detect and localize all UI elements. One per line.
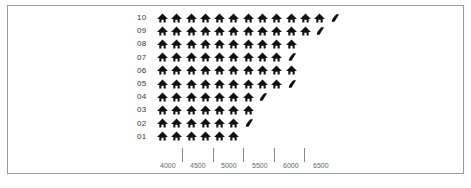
person-icon — [200, 118, 214, 129]
person-icon — [214, 25, 228, 36]
person-icon — [286, 65, 300, 76]
row-label: 07 — [137, 53, 157, 62]
person-icon — [228, 25, 242, 36]
person-icon — [186, 104, 200, 115]
person-icon — [228, 52, 242, 63]
tick-label: 4000 — [160, 162, 176, 169]
person-icon — [157, 12, 171, 23]
person-icon — [171, 38, 185, 49]
person-icon — [243, 78, 257, 89]
icon-group — [157, 118, 257, 129]
partial-person-icon — [257, 91, 271, 102]
person-icon — [171, 25, 185, 36]
person-icon — [186, 78, 200, 89]
corner-mark — [9, 176, 21, 182]
person-icon — [271, 65, 285, 76]
person-icon — [200, 38, 214, 49]
person-icon — [171, 78, 185, 89]
person-icon — [257, 78, 271, 89]
person-icon — [271, 25, 285, 36]
person-icon — [243, 52, 257, 63]
pictograph-row: 02 — [137, 117, 343, 130]
tick-label: 5000 — [221, 162, 237, 169]
person-icon — [243, 65, 257, 76]
person-icon — [286, 25, 300, 36]
person-icon — [228, 104, 242, 115]
pictograph-rows: 10090807060504030201 — [137, 11, 343, 143]
person-icon — [186, 91, 200, 102]
person-icon — [157, 25, 171, 36]
axis-tick — [213, 148, 214, 162]
person-icon — [200, 52, 214, 63]
row-label: 02 — [137, 119, 157, 128]
person-icon — [186, 25, 200, 36]
person-icon — [228, 91, 242, 102]
person-icon — [186, 118, 200, 129]
partial-person-icon — [243, 118, 257, 129]
person-icon — [200, 12, 214, 23]
pictograph-row: 05 — [137, 77, 343, 90]
icon-group — [157, 38, 300, 49]
person-icon — [157, 91, 171, 102]
person-icon — [214, 38, 228, 49]
person-icon — [286, 38, 300, 49]
person-icon — [257, 38, 271, 49]
person-icon — [228, 38, 242, 49]
person-icon — [171, 131, 185, 142]
person-icon — [214, 78, 228, 89]
person-icon — [214, 131, 228, 142]
person-icon — [214, 91, 228, 102]
tick-label: 5500 — [252, 162, 268, 169]
person-icon — [271, 38, 285, 49]
person-icon — [243, 104, 257, 115]
person-icon — [157, 65, 171, 76]
pictograph-row: 09 — [137, 24, 343, 37]
row-label: 05 — [137, 79, 157, 88]
person-icon — [186, 65, 200, 76]
person-icon — [228, 65, 242, 76]
pictograph-row: 07 — [137, 51, 343, 64]
icon-group — [157, 52, 300, 63]
person-icon — [228, 78, 242, 89]
pictograph-row: 10 — [137, 11, 343, 24]
person-icon — [171, 12, 185, 23]
person-icon — [171, 104, 185, 115]
person-icon — [200, 104, 214, 115]
axis-tick — [274, 148, 275, 162]
person-icon — [214, 118, 228, 129]
partial-person-icon — [286, 52, 300, 63]
axis-tick — [304, 148, 305, 162]
person-icon — [243, 25, 257, 36]
person-icon — [157, 118, 171, 129]
person-icon — [200, 91, 214, 102]
row-label: 10 — [137, 13, 157, 22]
person-icon — [171, 65, 185, 76]
pictograph-row: 04 — [137, 90, 343, 103]
axis-tick — [182, 148, 183, 162]
person-icon — [257, 65, 271, 76]
row-label: 09 — [137, 26, 157, 35]
person-icon — [214, 12, 228, 23]
person-icon — [157, 38, 171, 49]
person-icon — [186, 52, 200, 63]
pictograph-row: 03 — [137, 103, 343, 116]
person-icon — [286, 12, 300, 23]
icon-group — [157, 91, 271, 102]
row-label: 04 — [137, 92, 157, 101]
person-icon — [314, 12, 328, 23]
person-icon — [200, 131, 214, 142]
person-icon — [157, 131, 171, 142]
partial-person-icon — [329, 12, 343, 23]
person-icon — [243, 91, 257, 102]
person-icon — [300, 25, 314, 36]
person-icon — [257, 52, 271, 63]
tick-label: 6000 — [283, 162, 299, 169]
person-icon — [200, 25, 214, 36]
row-label: 08 — [137, 39, 157, 48]
person-icon — [214, 52, 228, 63]
icon-group — [157, 12, 343, 23]
tick-label: 6500 — [313, 162, 329, 169]
icon-group — [157, 65, 300, 76]
person-icon — [186, 38, 200, 49]
pictograph-row: 06 — [137, 64, 343, 77]
